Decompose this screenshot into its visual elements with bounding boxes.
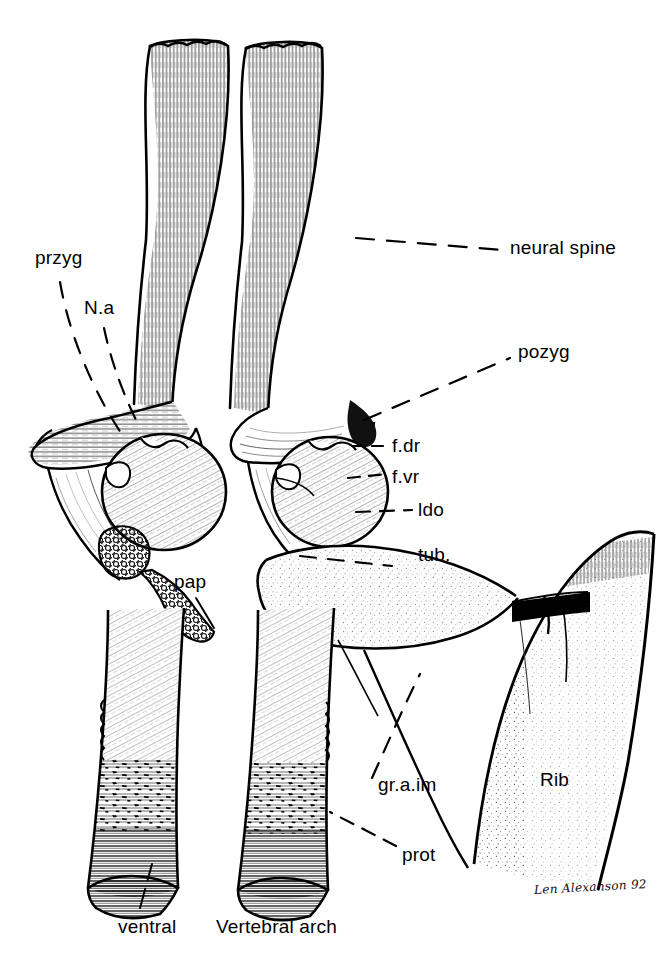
vertebral-centrum-right (230, 600, 350, 920)
label-prot: prot (402, 845, 436, 864)
artwork-layer (20, 30, 670, 920)
label-f-dr: f.dr (392, 436, 420, 455)
label-ldo: ldo (418, 500, 444, 519)
label-na: N.a (84, 298, 114, 317)
label-neural-spine: neural spine (510, 238, 616, 257)
anatomical-figure: przyg N.a neural spine pozyg f.dr f.vr l… (0, 0, 672, 956)
label-rib: Rib (540, 770, 569, 789)
label-ventral: ventral (118, 917, 176, 936)
neural-spine-right (216, 32, 346, 432)
label-pap: pap (174, 572, 206, 591)
label-tub: tub. (418, 545, 451, 564)
label-przyg: przyg (35, 248, 82, 267)
label-pozyg: pozyg (518, 342, 570, 361)
label-f-vr: f.vr (392, 467, 419, 486)
vertebral-centrum-left (80, 600, 200, 918)
label-vertebral-arch: Vertebral arch (216, 917, 337, 936)
illustration-artwork (0, 0, 672, 956)
label-gr-a-im: gr.a.im (378, 775, 436, 794)
rib (460, 520, 670, 900)
